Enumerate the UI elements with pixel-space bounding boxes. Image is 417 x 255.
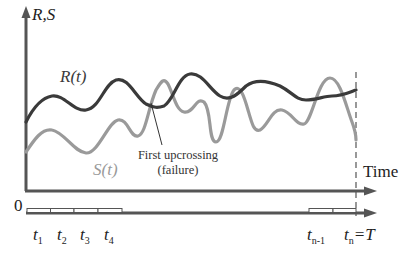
r-curve-label-arg: (t): [70, 67, 86, 86]
x-axis-label: Time: [363, 163, 398, 180]
tick-t2: t2: [57, 226, 67, 246]
annotation-line-1: First upcrossing: [128, 148, 228, 163]
y-axis-label: R,S: [32, 6, 55, 23]
tick-t4: t4: [104, 226, 114, 246]
reliability-diagram: R,S Time 0 R(t) S(t) First upcrossing (f…: [0, 0, 417, 255]
interval-box-n: [333, 209, 356, 213]
interval-box-2: [51, 209, 75, 213]
discrete-time-axis: [26, 209, 377, 218]
tick-t3: t3: [80, 226, 90, 246]
origin-label: 0: [14, 197, 23, 214]
s-curve-label: S(t): [93, 161, 118, 178]
tick-sub: 2: [62, 235, 67, 246]
tick-tn: tn=T: [344, 226, 375, 246]
tick-t1: t1: [33, 226, 43, 246]
s-curve: [26, 78, 356, 153]
first-upcrossing-annotation: First upcrossing (failure): [128, 148, 228, 178]
s-curve-label-arg: (t): [102, 160, 118, 179]
tick-tn-1: tn-1: [307, 226, 325, 246]
tick-sub: 3: [85, 235, 90, 246]
r-curve-label-main: R: [60, 67, 70, 86]
tick-sub: n-1: [312, 235, 325, 246]
s-curve-label-main: S: [93, 160, 102, 179]
upcrossing-pointer-line: [151, 103, 162, 145]
tick-sub: 4: [109, 235, 114, 246]
r-curve-label: R(t): [60, 68, 86, 85]
tick-suffix: =T: [354, 225, 375, 244]
tick-sub: 1: [38, 235, 43, 246]
interval-box-n-1: [309, 209, 333, 213]
time-axis: [25, 187, 377, 196]
interval-box-1: [27, 209, 51, 213]
interval-box-3: [74, 209, 98, 213]
annotation-line-2: (failure): [128, 163, 228, 178]
interval-box-4: [98, 209, 122, 213]
y-axis: [22, 6, 31, 191]
